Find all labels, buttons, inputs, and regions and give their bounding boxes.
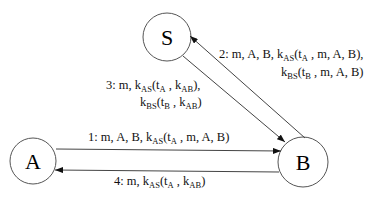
node-a-label: A	[25, 149, 41, 174]
node-s: S	[143, 13, 191, 61]
message-1-label: 1: m, A, B, kAS(tA , m, A, B)	[88, 130, 229, 145]
edge-b-to-a	[55, 170, 279, 172]
node-b-label: B	[296, 150, 311, 175]
message-3-label-line2: kBS(tB , kAB)	[140, 95, 202, 110]
node-s-label: S	[161, 25, 173, 50]
node-a: A	[10, 138, 56, 184]
node-b: B	[278, 137, 328, 187]
message-4-label: 4: m, kAS(tA , kAB)	[114, 174, 205, 189]
message-2-label-line2: kBS(tB , m, A, B)	[281, 65, 363, 80]
message-3-label-line1: 3: m, kAS(tA , kAB),	[106, 78, 200, 93]
message-2-label-line1: 2: m, A, B, kAS(tA , m, A, B),	[219, 47, 363, 62]
edge-a-to-b	[56, 149, 281, 151]
